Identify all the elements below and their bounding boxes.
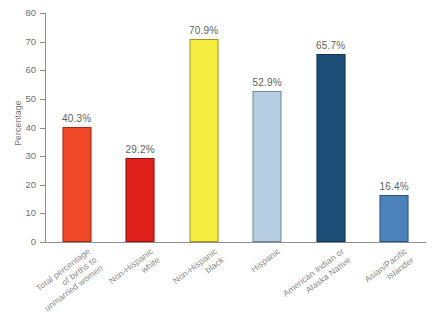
bar-value-label: 70.9% [189, 25, 218, 36]
x-axis-line [45, 242, 426, 243]
bar-value-label: 16.4% [380, 181, 409, 192]
bar-value-label: 29.2% [126, 144, 155, 155]
bar[interactable] [126, 158, 155, 242]
y-axis-tick-label: 30 [14, 151, 36, 161]
bar[interactable] [380, 195, 409, 242]
bar-value-label: 65.7% [316, 40, 345, 51]
y-axis-tick-label: 80 [14, 8, 36, 18]
bar[interactable] [189, 39, 218, 242]
bar[interactable] [316, 54, 345, 242]
y-axis-tick-label: 20 [14, 180, 36, 190]
y-axis-tick-label: 0 [14, 237, 36, 247]
bar[interactable] [253, 91, 282, 242]
cut-off-title-sliver [40, 0, 400, 4]
bar-group[interactable]: 29.2% [109, 13, 173, 242]
y-axis-tick-label: 50 [14, 94, 36, 104]
bar[interactable] [62, 127, 91, 242]
bar-chart: Percentage 80706050403020100 40.3%29.2%7… [0, 0, 433, 331]
bar-group[interactable]: 16.4% [363, 13, 427, 242]
bar-group[interactable]: 65.7% [299, 13, 363, 242]
y-axis-tick-label: 40 [14, 123, 36, 133]
bar-value-label: 40.3% [62, 113, 91, 124]
y-axis-tick-label: 70 [14, 37, 36, 47]
bar-group[interactable]: 40.3% [45, 13, 109, 242]
bar-group[interactable]: 70.9% [172, 13, 236, 242]
plot-area: 40.3%29.2%70.9%52.9%65.7%16.4% [45, 13, 426, 242]
y-axis-tick [40, 242, 46, 243]
bar-value-label: 52.9% [253, 77, 282, 88]
y-axis-tick-label: 10 [14, 208, 36, 218]
y-axis-tick-label: 60 [14, 65, 36, 75]
bar-group[interactable]: 52.9% [236, 13, 300, 242]
